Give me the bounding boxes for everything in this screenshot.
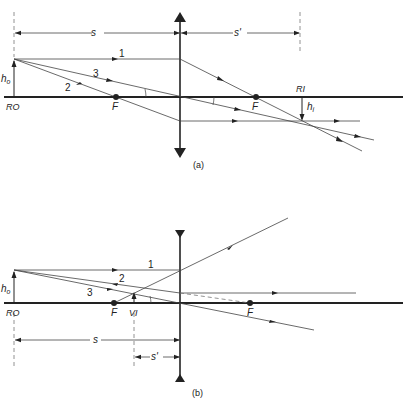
- label-image-height-a: hi: [307, 101, 315, 113]
- label-focal-left-b: F: [111, 307, 118, 318]
- label-focal-right-a: F: [252, 101, 259, 112]
- caption-a: (a): [193, 160, 204, 170]
- diverging-lens-icon: [175, 230, 185, 382]
- label-object-b: RO: [6, 308, 20, 318]
- label-object-height-b: ho: [1, 283, 11, 295]
- diagram-b: 1 2 3 ho RO F VI F s s' (b): [1, 218, 403, 398]
- label-ray-2-a: 2: [65, 82, 71, 93]
- focal-point-right-b: [247, 300, 253, 306]
- label-s-a: s: [91, 27, 96, 38]
- label-s-b: s: [93, 334, 98, 345]
- label-image-a: RI: [296, 84, 305, 94]
- focal-point-left-a: [113, 94, 119, 100]
- lens-ray-diagrams: s s' 1 2 3 ho RO F F RI hi (a): [0, 0, 408, 408]
- label-image-b: VI: [129, 308, 138, 318]
- ray-3-a: [14, 59, 374, 140]
- label-ray-3-b: 3: [87, 287, 93, 298]
- label-ray-3-a: 3: [93, 68, 99, 79]
- label-focal-right-b: F: [247, 307, 254, 318]
- label-object-a: RO: [6, 102, 20, 112]
- label-s-prime-b: s': [151, 351, 159, 362]
- label-s-prime-a: s': [234, 27, 242, 38]
- focal-point-right-a: [253, 94, 259, 100]
- label-object-height-a: ho: [1, 73, 11, 85]
- caption-b: (b): [192, 388, 203, 398]
- ray-2-b: [14, 270, 180, 293]
- label-ray-1-a: 1: [119, 48, 125, 59]
- focal-point-left-b: [111, 300, 117, 306]
- converging-lens-icon: [174, 12, 186, 158]
- label-ray-1-b: 1: [148, 259, 154, 270]
- label-focal-left-a: F: [112, 101, 119, 112]
- diagram-a: s s' 1 2 3 ho RO F F RI hi (a): [1, 12, 403, 170]
- label-ray-2-b: 2: [119, 273, 125, 284]
